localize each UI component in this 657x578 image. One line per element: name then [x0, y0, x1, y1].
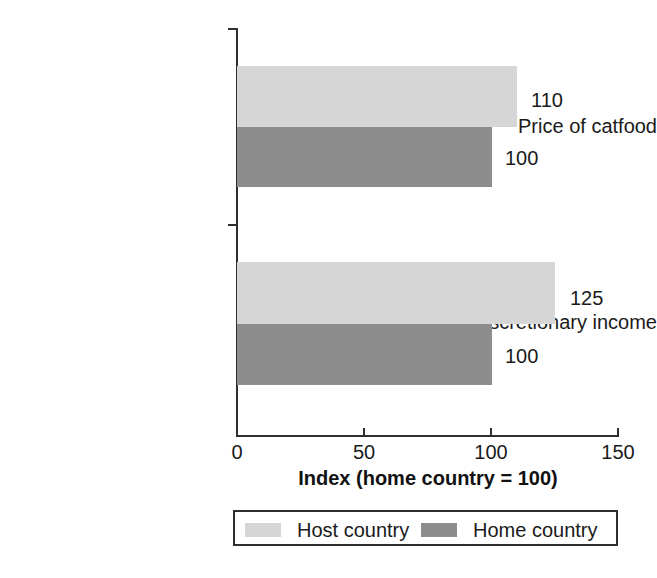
chart-legend: Host country Home country	[233, 510, 618, 546]
bar-price-of-catfood-host-country	[237, 66, 517, 127]
x-axis-line	[236, 435, 619, 437]
bar-value-discretionary-income-home-country: 100	[505, 345, 538, 367]
x-axis-tick-150	[617, 428, 619, 437]
home-country-swatch	[421, 523, 457, 537]
host-country-swatch	[245, 523, 281, 537]
x-axis-tick-label-100: 100	[461, 440, 521, 464]
x-axis-tick-50	[363, 428, 365, 437]
bar-price-of-catfood-home-country	[237, 127, 492, 187]
legend-entry-host-country: Host country	[245, 519, 409, 541]
bar-discretionary-income-home-country	[237, 324, 492, 385]
x-axis-tick-label-0: 0	[207, 440, 267, 464]
legend-label-home-country: Home country	[473, 519, 598, 541]
bar-chart: 0 50 100 150 Price of catfood Discretion…	[0, 0, 657, 578]
bar-value-discretionary-income-host-country: 125	[570, 287, 603, 309]
bar-value-price-of-catfood-host-country: 110	[531, 89, 563, 111]
bar-discretionary-income-host-country	[237, 262, 555, 324]
legend-entry-home-country: Home country	[421, 519, 598, 541]
bar-value-price-of-catfood-home-country: 100	[505, 147, 538, 169]
x-axis-tick-label-150: 150	[588, 440, 648, 464]
x-axis-tick-100	[490, 428, 492, 437]
x-axis-tick-label-50: 50	[334, 440, 394, 464]
x-axis-title: Index (home country = 100)	[236, 466, 620, 490]
legend-label-host-country: Host country	[297, 519, 409, 541]
y-axis-tick-middle	[228, 224, 236, 226]
x-axis-tick-0	[236, 428, 238, 437]
y-axis-tick-top	[228, 28, 236, 30]
